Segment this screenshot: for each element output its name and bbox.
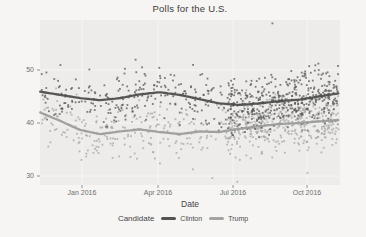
poll-chart-figure: Polls for the U.S. 50 40 30 Jan 2016 A <box>0 0 366 237</box>
y-tick-50: 50 <box>0 66 34 74</box>
trump-line-swatch-icon <box>209 217 224 220</box>
legend-item-trump: Trump <box>209 215 248 222</box>
legend-item-clinton: Clinton <box>161 215 202 222</box>
x-axis-label: Date <box>40 199 340 209</box>
legend-label-trump: Trump <box>228 215 248 222</box>
y-tick-30: 30 <box>0 172 34 180</box>
legend: Candidate Clinton Trump <box>0 214 366 223</box>
x-tick-jan2016: Jan 2016 <box>52 189 112 197</box>
x-tick-apr2016: Apr 2016 <box>128 189 188 197</box>
x-tick-oct2016: Oct 2016 <box>277 189 337 197</box>
x-tick-jul2016: Jul 2016 <box>203 189 263 197</box>
legend-label-clinton: Clinton <box>180 215 202 222</box>
clinton-line-swatch-icon <box>161 217 176 220</box>
legend-title: Candidate <box>118 214 154 223</box>
y-tick-40: 40 <box>0 119 34 127</box>
